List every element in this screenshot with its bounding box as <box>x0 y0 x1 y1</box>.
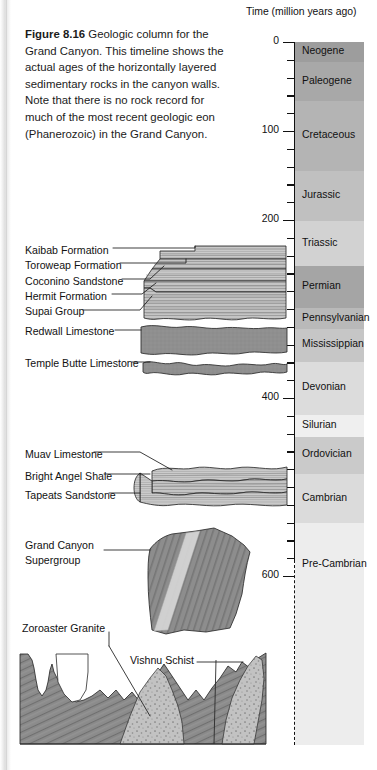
axis-tick-minor <box>287 327 294 328</box>
axis-tick-major-400 <box>283 398 294 399</box>
formation-label-redwall-limestone: Redwall Limestone <box>25 325 115 337</box>
formation-label-supai-group: Supai Group <box>25 305 84 317</box>
geologic-period-bands <box>295 42 364 745</box>
formation-label-grand-canyon-supergroup: Grand Canyon Supergroup <box>25 538 105 568</box>
axis-tick-minor <box>287 113 294 114</box>
axis-tick-minor <box>287 434 294 435</box>
axis-tick-label-500: 500 <box>237 480 279 491</box>
axis-tick-minor <box>287 256 294 257</box>
axis-tick-major-0 <box>283 42 294 43</box>
axis-tick-label-100: 100 <box>237 124 279 135</box>
formation-label-bright-angel-shale: Bright Angel Shale <box>25 470 112 482</box>
time-axis-line <box>294 42 295 560</box>
axis-tick-minor <box>287 309 294 310</box>
period-label-triassic: Triassic <box>302 237 337 248</box>
axis-tick-minor <box>287 95 294 96</box>
period-label-paleogene: Paleogene <box>302 75 352 86</box>
axis-tick-label-0: 0 <box>237 35 279 46</box>
axis-tick-minor <box>287 184 294 185</box>
formation-label-zoroaster-granite: Zoroaster Granite <box>22 622 105 634</box>
formation-label-vishnu-schist: Vishnu Schist <box>130 654 194 666</box>
axis-tick-major-200 <box>283 220 294 221</box>
axis-tick-minor <box>287 238 294 239</box>
period-label-cretaceous: Cretaceous <box>302 129 355 140</box>
axis-tick-minor <box>287 273 294 274</box>
period-label-jurassic: Jurassic <box>302 189 340 200</box>
period-label-pre-cambrian: Pre-Cambrian <box>302 558 367 569</box>
axis-tick-minor <box>287 60 294 61</box>
axis-tick-minor <box>287 505 294 506</box>
axis-tick-minor <box>287 380 294 381</box>
axis-tick-minor <box>287 202 294 203</box>
axis-title: Time (million years ago) <box>246 6 356 17</box>
formation-label-hermit-formation: Hermit Formation <box>25 290 107 302</box>
axis-tick-minor <box>287 558 294 559</box>
axis-tick-minor <box>287 469 294 470</box>
axis-tick-minor <box>287 540 294 541</box>
formation-label-tapeats-sandstone: Tapeats Sandstone <box>25 489 116 501</box>
axis-tick-minor <box>287 345 294 346</box>
axis-tick-minor <box>287 78 294 79</box>
formation-label-toroweap-formation: Toroweap Formation <box>25 259 122 271</box>
figure-caption-text: Geologic column for the Grand Canyon. Th… <box>25 28 224 140</box>
figure-page: Figure 8.16 Geologic column for the Gran… <box>0 0 377 770</box>
period-band-pre-cambrian <box>295 523 364 745</box>
axis-tick-minor <box>287 291 294 292</box>
formation-label-kaibab-formation: Kaibab Formation <box>25 244 109 256</box>
axis-tick-minor <box>287 167 294 168</box>
axis-tick-minor <box>287 149 294 150</box>
axis-tick-minor <box>287 451 294 452</box>
axis-tick-label-600: 600 <box>237 569 279 580</box>
axis-tick-minor <box>287 523 294 524</box>
axis-tick-label-200: 200 <box>237 213 279 224</box>
period-label-pennsylvanian: Pennsylvanian <box>302 312 370 323</box>
figure-number: Figure 8.16 <box>25 28 85 40</box>
period-label-neogene: Neogene <box>302 45 344 56</box>
axis-tick-minor <box>287 416 294 417</box>
time-axis-dashed <box>294 560 295 745</box>
axis-tick-label-400: 400 <box>237 391 279 402</box>
period-label-mississippian: Mississippian <box>302 338 364 349</box>
formation-label-temple-butte-limestone: Temple Butte Limestone <box>25 357 139 369</box>
axis-tick-major-600 <box>283 576 294 577</box>
axis-tick-major-100 <box>283 131 294 132</box>
axis-tick-minor <box>287 362 294 363</box>
page-edge-line <box>6 0 7 770</box>
period-label-devonian: Devonian <box>302 381 346 392</box>
axis-tick-major-500 <box>283 487 294 488</box>
period-label-permian: Permian <box>302 280 341 291</box>
period-label-cambrian: Cambrian <box>302 492 347 503</box>
period-label-silurian: Silurian <box>302 419 337 430</box>
formation-label-coconino-sandstone: Coconino Sandstone <box>25 275 123 287</box>
figure-caption: Figure 8.16 Geologic column for the Gran… <box>25 26 230 142</box>
formation-label-muav-limestone: Muav Limestone <box>25 448 103 460</box>
period-label-ordovician: Ordovician <box>302 448 352 459</box>
